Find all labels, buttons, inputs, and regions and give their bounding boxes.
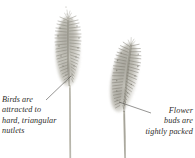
left-flower-spike: [55, 6, 81, 158]
caption-left-line-3: hard, triangular: [2, 116, 57, 126]
right-flower-spike: [105, 35, 145, 158]
flower-buds-caption: Flower buds are tightly packed: [145, 106, 193, 137]
botanical-figure: Birds are attracted to hard, triangular …: [0, 0, 195, 158]
caption-right-line-3: tightly packed: [145, 127, 193, 137]
caption-right-line-2: buds are: [145, 116, 193, 126]
caption-left-line-2: attracted to: [2, 105, 57, 115]
birds-nutlets-caption: Birds are attracted to hard, triangular …: [2, 95, 57, 137]
caption-right-line-1: Flower: [145, 106, 193, 116]
stray-bract-speck: [65, 6, 66, 7]
caption-left-line-4: nutlets: [2, 126, 57, 136]
caption-left-line-1: Birds are: [2, 95, 57, 105]
